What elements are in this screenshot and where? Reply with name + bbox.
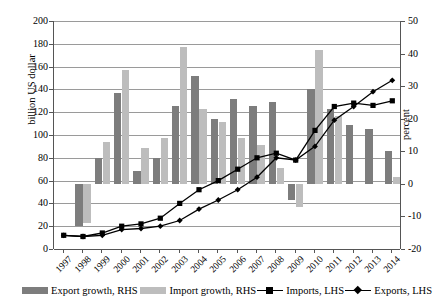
tick-mark <box>101 249 102 253</box>
y-axis-left-tick-label: 0 <box>12 244 48 254</box>
tick-mark <box>140 249 141 253</box>
line-exports <box>64 80 393 236</box>
tick-mark <box>49 249 53 250</box>
marker-square <box>177 201 182 206</box>
tick-mark <box>63 249 64 253</box>
diamond-marker-icon <box>354 286 362 294</box>
legend-label-exports: Exports, LHS <box>374 285 432 296</box>
marker-diamond <box>389 77 395 83</box>
y-axis-left-tick-label: 200 <box>12 16 48 26</box>
tick-mark <box>391 249 392 253</box>
marker-square <box>158 216 163 221</box>
marker-square <box>332 104 337 109</box>
line-imports <box>64 101 393 237</box>
tick-mark <box>82 249 83 253</box>
marker-square <box>196 187 201 192</box>
y-axis-right-tick-label: 50 <box>408 16 434 26</box>
y-axis-left-tick-label: 80 <box>12 153 48 163</box>
y-axis-right-tick-label: -10 <box>408 211 434 221</box>
y-axis-left-tick-label: 140 <box>12 84 48 94</box>
legend-item-export-growth: Export growth, RHS <box>22 285 138 296</box>
legend-swatch-exports <box>345 286 371 295</box>
tick-mark <box>353 249 354 253</box>
marker-diamond <box>177 218 183 224</box>
marker-square <box>312 128 317 133</box>
marker-diamond <box>157 223 163 229</box>
tick-mark <box>314 249 315 253</box>
legend-item-imports: Imports, LHS <box>257 285 344 296</box>
tick-mark <box>295 249 296 253</box>
y-axis-left-tick-label: 60 <box>12 176 48 186</box>
tick-mark <box>237 249 238 253</box>
gridline <box>54 249 400 250</box>
legend-label-import-growth: Import growth, RHS <box>169 285 256 296</box>
tick-mark <box>256 249 257 253</box>
y-axis-left-tick-label: 180 <box>12 39 48 49</box>
marker-square <box>390 98 395 103</box>
plot-area <box>53 21 401 249</box>
chart-figure: billion US dollar percent 02040608010012… <box>0 0 444 305</box>
legend-swatch-imports <box>257 286 283 295</box>
marker-square <box>254 155 259 160</box>
marker-square <box>370 103 375 108</box>
line-series-group <box>54 21 402 249</box>
y-axis-right-tick-label: 20 <box>408 114 434 124</box>
tick-mark <box>401 249 405 250</box>
y-axis-left-tick-label: 20 <box>12 221 48 231</box>
legend-label-imports: Imports, LHS <box>286 285 344 296</box>
tick-mark <box>333 249 334 253</box>
y-axis-left-tick-label: 120 <box>12 107 48 117</box>
y-axis-right-tick-label: 0 <box>408 179 434 189</box>
y-axis-left-tick-label: 40 <box>12 198 48 208</box>
legend-item-import-growth: Import growth, RHS <box>140 285 256 296</box>
marker-square <box>235 167 240 172</box>
y-axis-right-tick-label: 10 <box>408 146 434 156</box>
marker-square <box>216 178 221 183</box>
legend-swatch-export-growth <box>22 287 48 294</box>
square-marker-icon <box>266 287 273 294</box>
y-axis-right-tick-label: 30 <box>408 81 434 91</box>
tick-mark <box>179 249 180 253</box>
legend-swatch-import-growth <box>140 287 166 294</box>
y-axis-left-tick-label: 100 <box>12 130 48 140</box>
legend-item-exports: Exports, LHS <box>345 285 432 296</box>
tick-mark <box>198 249 199 253</box>
tick-mark <box>217 249 218 253</box>
tick-mark <box>372 249 373 253</box>
tick-mark <box>121 249 122 253</box>
marker-diamond <box>196 206 202 212</box>
y-axis-right-tick-label: -20 <box>408 244 434 254</box>
chart-legend: Export growth, RHS Import growth, RHS Im… <box>22 282 432 298</box>
y-axis-right-tick-label: 40 <box>408 49 434 59</box>
y-axis-left-tick-label: 160 <box>12 62 48 72</box>
marker-diamond <box>215 197 221 203</box>
legend-label-export-growth: Export growth, RHS <box>51 285 138 296</box>
tick-mark <box>159 249 160 253</box>
tick-mark <box>275 249 276 253</box>
